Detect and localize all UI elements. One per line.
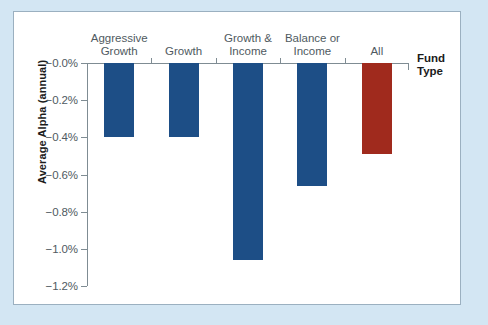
x-axis-end-tick <box>408 63 409 70</box>
category-label: Growth &Income <box>224 32 272 57</box>
category-label: Growth <box>165 45 202 58</box>
x-axis-tick <box>345 58 346 63</box>
category-label: All <box>370 45 383 58</box>
y-axis-tick <box>81 249 87 250</box>
y-axis-tick-label: −0.2% <box>46 94 78 106</box>
y-axis-tick <box>81 286 87 287</box>
category-label-line: Growth <box>165 45 202 58</box>
y-axis-tick-label: −0.4% <box>46 131 78 143</box>
y-axis-tick-label: −0.0% <box>46 57 78 69</box>
y-axis-tick <box>81 175 87 176</box>
x-axis-title: FundType <box>417 52 445 78</box>
x-axis-tick <box>151 58 152 63</box>
category-label-line: Income <box>224 45 272 58</box>
bar-growth-income[interactable] <box>233 63 263 260</box>
chart-figure: Average Alpha (annual) FundType −0.0%−0.… <box>13 11 461 305</box>
y-axis-tick-label: −1.2% <box>46 280 78 292</box>
x-axis-tick <box>280 58 281 63</box>
category-label-line: All <box>370 45 383 58</box>
y-axis-line <box>87 63 88 286</box>
bar-aggressive-growth[interactable] <box>104 63 134 137</box>
y-axis-tick-label: −1.0% <box>46 243 78 255</box>
y-axis-title: Average Alpha (annual) <box>36 60 48 184</box>
category-label-line: Aggressive <box>91 32 148 45</box>
y-axis-tick <box>81 137 87 138</box>
category-label: Balance orIncome <box>285 32 340 57</box>
category-label: AggressiveGrowth <box>91 32 148 57</box>
category-label-line: Income <box>285 45 340 58</box>
category-label-line: Growth <box>91 45 148 58</box>
x-axis-title-line: Fund <box>417 52 445 65</box>
category-label-line: Growth & <box>224 32 272 45</box>
bar-balance-or-income[interactable] <box>297 63 327 186</box>
bar-growth[interactable] <box>169 63 199 137</box>
y-axis-tick-label: −0.6% <box>46 169 78 181</box>
y-axis-tick <box>81 212 87 213</box>
plot-area: −0.0%−0.2%−0.4%−0.6%−0.8%−1.0%−1.2% Aggr… <box>87 63 409 286</box>
y-axis-tick <box>81 63 87 64</box>
category-label-line: Balance or <box>285 32 340 45</box>
x-axis-title-line: Type <box>417 65 445 78</box>
x-axis-tick <box>216 58 217 63</box>
bar-all[interactable] <box>362 63 392 154</box>
y-axis-tick-label: −0.8% <box>46 206 78 218</box>
y-axis-tick <box>81 100 87 101</box>
